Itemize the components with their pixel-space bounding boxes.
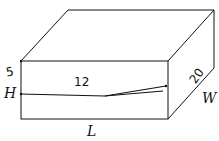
box-diagram — [0, 0, 219, 141]
length-label: L — [87, 124, 96, 138]
length-value: 12 — [74, 76, 89, 88]
top-face — [21, 10, 214, 61]
height-label: H — [4, 86, 16, 100]
front-face — [21, 61, 168, 119]
width-label: W — [202, 91, 216, 105]
handwritten-line — [20, 86, 166, 96]
